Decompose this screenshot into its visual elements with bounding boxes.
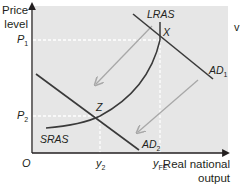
x-axis-title-line1: Real national bbox=[158, 157, 230, 171]
origin-label: O bbox=[22, 158, 31, 169]
ad2-main: AD bbox=[142, 138, 157, 150]
point-x-label: X bbox=[163, 27, 170, 38]
y-axis-title-line1: Price bbox=[2, 3, 28, 17]
x-axis-title: Real national output bbox=[158, 157, 230, 184]
sras-label: SRAS bbox=[40, 134, 69, 145]
y2-sub: 2 bbox=[102, 164, 106, 171]
plot-area bbox=[33, 6, 228, 153]
y-axis-title-line2: level bbox=[2, 17, 28, 31]
lras-label: LRAS bbox=[147, 9, 174, 20]
p2-label: P2 bbox=[17, 110, 28, 123]
p1-label: P1 bbox=[17, 34, 28, 47]
y-axis-title: Price level bbox=[2, 3, 28, 31]
x-axis-title-line2: output bbox=[158, 171, 230, 184]
point-z-label: Z bbox=[96, 102, 102, 113]
yfe-label: yFE bbox=[153, 158, 167, 171]
y2-label: y2 bbox=[96, 158, 105, 171]
ad2-sub: 2 bbox=[157, 145, 161, 152]
ad1-main: AD bbox=[209, 64, 224, 76]
ad1-sub: 1 bbox=[224, 71, 228, 78]
p2-sub: 2 bbox=[24, 116, 28, 123]
yfe-sub: FE bbox=[159, 164, 168, 171]
p1-sub: 1 bbox=[24, 40, 28, 47]
edge-text-fragment: v bbox=[234, 22, 240, 33]
ad1-label: AD1 bbox=[209, 65, 228, 78]
ad2-label: AD2 bbox=[142, 139, 161, 152]
